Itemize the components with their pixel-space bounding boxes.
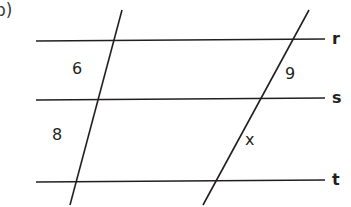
transversal-left-line (70, 10, 122, 205)
line-label-s: s (332, 90, 342, 106)
angle-label-6: 6 (72, 61, 82, 77)
part-label: b) (0, 2, 12, 19)
angle-label-x: x (245, 132, 254, 148)
line-t (36, 180, 325, 182)
figure-canvas (0, 0, 351, 207)
line-label-r: r (332, 31, 340, 47)
geometry-figure: b) r s t 6 9 8 x (0, 0, 351, 207)
line-s (36, 98, 325, 100)
angle-label-9: 9 (285, 66, 295, 82)
angle-label-8: 8 (52, 127, 62, 143)
line-r (36, 39, 325, 41)
line-label-t: t (332, 172, 340, 188)
